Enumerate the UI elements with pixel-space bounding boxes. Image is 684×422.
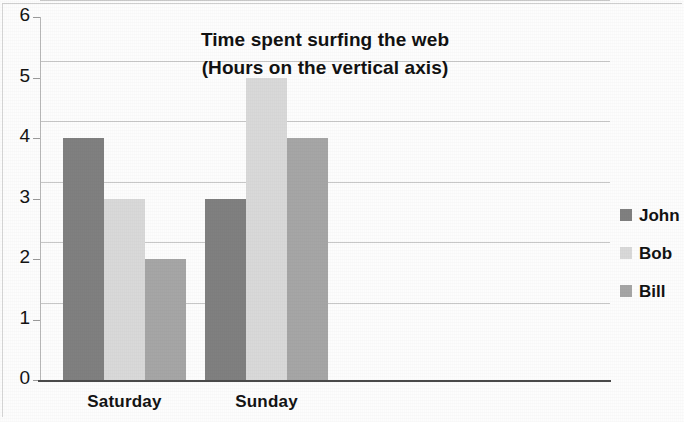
bar bbox=[104, 199, 145, 381]
chart-title-line1: Time spent surfing the web bbox=[201, 29, 449, 50]
x-tick-label: Sunday bbox=[205, 392, 328, 412]
bar bbox=[63, 138, 104, 380]
legend-item[interactable]: John bbox=[620, 196, 680, 234]
chart-legend: JohnBobBill bbox=[620, 196, 680, 310]
bar bbox=[145, 259, 186, 380]
legend-swatch-icon bbox=[620, 285, 632, 297]
legend-label: John bbox=[639, 207, 680, 224]
legend-swatch-icon bbox=[620, 209, 632, 221]
x-tick-label: Saturday bbox=[63, 392, 186, 412]
legend-item[interactable]: Bill bbox=[620, 272, 680, 310]
legend-label: Bill bbox=[639, 283, 665, 300]
legend-item[interactable]: Bob bbox=[620, 234, 680, 272]
bar bbox=[205, 199, 246, 381]
legend-label: Bob bbox=[639, 245, 672, 262]
chart-figure: 0123456 SaturdaySunday Time spent surfin… bbox=[0, 0, 684, 422]
chart-title-line2: (Hours on the vertical axis) bbox=[150, 54, 500, 82]
legend-swatch-icon bbox=[620, 247, 632, 259]
bar bbox=[246, 78, 287, 381]
bar bbox=[287, 138, 328, 380]
chart-title: Time spent surfing the web (Hours on the… bbox=[150, 26, 500, 82]
